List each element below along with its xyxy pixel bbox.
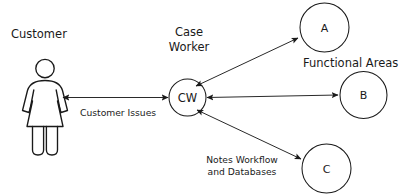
node-c: C	[302, 144, 351, 193]
edge-cw-c	[197, 110, 301, 159]
edge-cw-b	[207, 95, 338, 98]
node-a: A	[300, 3, 349, 52]
node-a-label: A	[321, 22, 329, 35]
node-c-label: C	[323, 163, 331, 176]
customer-title-label: Customer	[11, 28, 67, 42]
customer-issues-edge-label: Customer Issues	[80, 108, 156, 119]
case-worker-title-line2: Worker	[150, 41, 228, 55]
node-cw: CW	[169, 79, 206, 116]
notes-workflow-edge-label-line1: Notes Workflow	[190, 155, 294, 166]
functional-areas-title-label: Functional Areas	[303, 57, 398, 71]
case-worker-diagram: CW A B C Customer Case Worker Functional…	[0, 0, 416, 196]
node-cw-label: CW	[178, 91, 197, 105]
node-b: B	[340, 72, 387, 119]
case-worker-title-line1: Case	[150, 26, 228, 40]
notes-workflow-edge-label-line2: and Databases	[190, 167, 294, 178]
node-b-label: B	[360, 89, 368, 102]
customer-figure-icon	[23, 59, 68, 155]
